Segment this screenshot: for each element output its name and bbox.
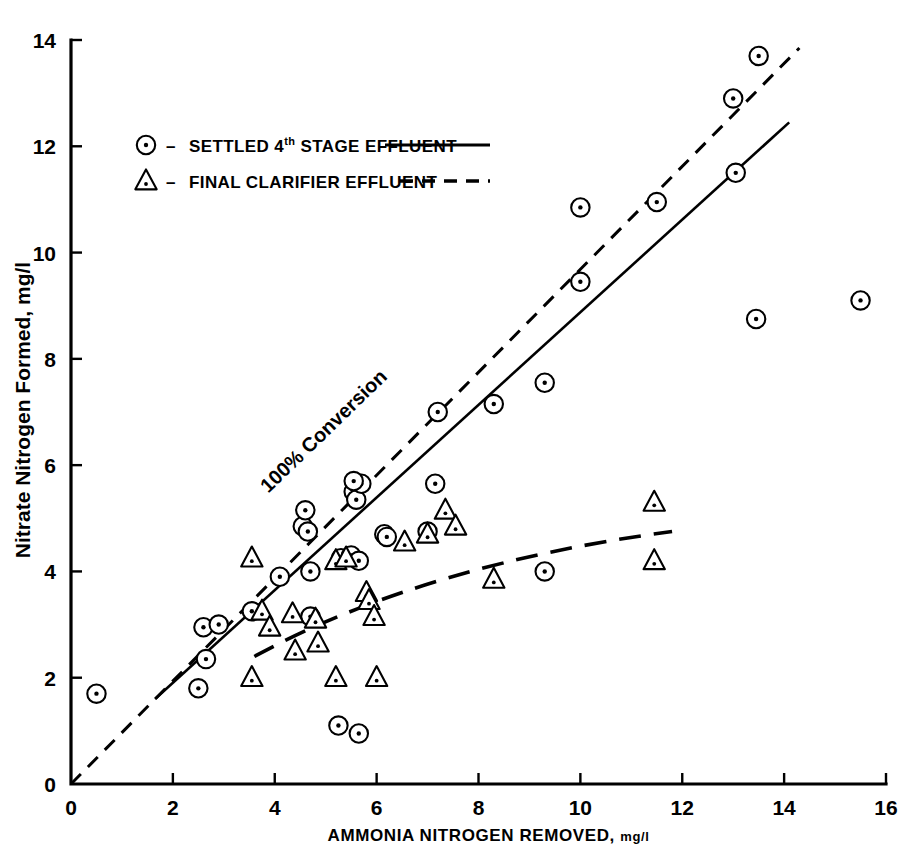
data-point-circle: [724, 89, 742, 107]
data-point-circle: [648, 193, 666, 211]
data-point-circle: [851, 291, 869, 309]
marker-center-dot: [372, 618, 376, 622]
marker-center-dot: [217, 622, 221, 626]
marker-center-dot: [578, 280, 582, 284]
marker-center-dot: [454, 527, 458, 531]
data-point-triangle: [644, 491, 665, 511]
data-point-circle: [301, 562, 319, 580]
marker-center-dot: [731, 96, 735, 100]
marker-center-dot: [433, 482, 437, 486]
marker-center-dot: [578, 205, 582, 209]
marker-center-dot: [314, 620, 318, 624]
y-tick-label: 2: [44, 667, 56, 690]
x-axis-title: AMMONIA NITROGEN REMOVED, mg/l: [328, 826, 650, 845]
marker-center-dot: [357, 559, 361, 563]
marker-center-dot: [492, 581, 496, 585]
marker-center-dot: [734, 171, 738, 175]
marker-center-dot: [303, 508, 307, 512]
axis-titles-group: AMMONIA NITROGEN REMOVED, mg/lNitrate Ni…: [11, 262, 649, 845]
marker-center-dot: [94, 691, 98, 695]
annotation-group: 100% Conversion: [256, 365, 391, 497]
x-tick-label: 16: [874, 796, 897, 819]
data-point-triangle: [241, 666, 262, 686]
marker-outline: [394, 531, 415, 551]
data-point-triangle: [644, 549, 665, 569]
x-axis-title-main: AMMONIA NITROGEN REMOVED,: [328, 826, 621, 845]
marker-center-dot: [652, 562, 656, 566]
data-point-circle: [189, 679, 207, 697]
x-tick-label: 10: [569, 796, 592, 819]
x-tick-label: 0: [65, 796, 77, 819]
marker-outline: [307, 632, 328, 652]
data-point-circle: [571, 273, 589, 291]
data-point-circle: [350, 724, 368, 742]
marker-outline: [284, 640, 305, 660]
marker-center-dot: [403, 543, 407, 547]
data-point-triangle: [394, 531, 415, 551]
y-tick-label: 12: [33, 135, 56, 158]
x-axis-title-units: mg/l: [620, 829, 649, 844]
data-point-circle: [271, 568, 289, 586]
marker-center-dot: [385, 535, 389, 539]
data-point-circle: [299, 522, 317, 540]
y-axis-title: Nitrate Nitrogen Formed, mg/l: [11, 262, 34, 558]
y-tick-label: 6: [44, 454, 56, 477]
marker-outline: [241, 666, 262, 686]
y-tick-label: 14: [33, 29, 57, 52]
marker-center-dot: [354, 497, 358, 501]
x-tick-label: 4: [269, 796, 281, 819]
marker-center-dot: [306, 529, 310, 533]
data-point-circle: [87, 684, 105, 702]
chart-root: 024681012141602468101214 100% Conversion…: [0, 0, 911, 854]
marker-center-dot: [344, 559, 348, 563]
data-point-circle: [426, 475, 444, 493]
legend-item: –SETTLED 4th STAGE EFFLUENT: [137, 135, 490, 156]
marker-center-dot: [436, 410, 440, 414]
legend-dash: –: [166, 137, 176, 156]
marker-outline: [483, 568, 504, 588]
marker-center-dot: [367, 602, 371, 606]
y-tick-label: 4: [44, 560, 56, 583]
marker-center-dot: [492, 402, 496, 406]
marker-center-dot: [268, 628, 272, 632]
data-point-triangle: [483, 568, 504, 588]
marker-center-dot: [334, 679, 338, 683]
marker-outline: [644, 549, 665, 569]
data-point-circle: [727, 164, 745, 182]
data-point-triangle: [325, 666, 346, 686]
data-point-circle: [571, 198, 589, 216]
marker-center-dot: [293, 652, 297, 656]
x-tick-label: 6: [371, 796, 383, 819]
data-point-triangle: [284, 640, 305, 660]
x-tick-label: 8: [473, 796, 485, 819]
y-tick-label: 8: [44, 348, 56, 371]
data-point-circle: [296, 501, 314, 519]
marker-center-dot: [357, 731, 361, 735]
marker-center-dot: [543, 381, 547, 385]
marker-center-dot: [316, 644, 320, 648]
legend-label-superscript: th: [284, 135, 295, 147]
marker-outline: [135, 169, 156, 189]
marker-center-dot: [308, 569, 312, 573]
data-point-circle: [749, 47, 767, 65]
data-point-circle: [536, 374, 554, 392]
data-point-triangle: [135, 169, 156, 189]
data-point-triangle: [307, 632, 328, 652]
data-point-triangle: [435, 499, 456, 519]
data-point-circle: [345, 472, 363, 490]
scatter-plot-svg: 024681012141602468101214 100% Conversion…: [0, 0, 911, 854]
marker-center-dot: [291, 615, 295, 619]
marker-center-dot: [352, 479, 356, 483]
marker-center-dot: [250, 679, 254, 683]
data-point-circle: [747, 310, 765, 328]
data-point-circle: [378, 528, 396, 546]
marker-center-dot: [250, 559, 254, 563]
marker-outline: [282, 602, 303, 622]
marker-center-dot: [652, 503, 656, 507]
data-point-circle: [429, 403, 447, 421]
x-tick-label: 2: [167, 796, 179, 819]
marker-center-dot: [196, 686, 200, 690]
marker-center-dot: [655, 200, 659, 204]
x-tick-label: 12: [671, 796, 694, 819]
x-tick-label: 14: [772, 796, 796, 819]
